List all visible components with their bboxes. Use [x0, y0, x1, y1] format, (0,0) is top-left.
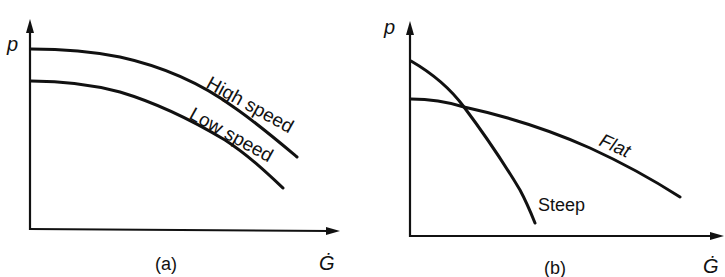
- flat-curve: [411, 99, 680, 197]
- panel-a-x-arrow-icon: [326, 227, 340, 235]
- panel-a: p High speed Low speed (a) Ġ: [6, 19, 340, 274]
- panel-a-caption: (a): [155, 254, 177, 274]
- panel-b-caption: (b): [544, 258, 566, 277]
- panel-b-y-arrow-icon: [406, 21, 414, 35]
- panel-a-y-label: p: [6, 33, 18, 55]
- panel-a-x-axis: [29, 229, 330, 231]
- panel-a-x-label: Ġ: [319, 252, 335, 274]
- fan-characteristic-figure: p High speed Low speed (a) Ġ p Flat Stee…: [0, 0, 725, 277]
- steep-curve: [411, 61, 535, 223]
- panel-b-y-label: p: [383, 16, 395, 38]
- panel-b: p Flat Steep (b) Ġ: [383, 16, 724, 277]
- steep-label: Steep: [538, 195, 585, 215]
- panel-b-x-arrow-icon: [710, 232, 724, 240]
- panel-b-x-label: Ġ: [703, 255, 719, 277]
- panel-a-y-arrow-icon: [26, 19, 34, 33]
- flat-label: Flat: [596, 129, 634, 161]
